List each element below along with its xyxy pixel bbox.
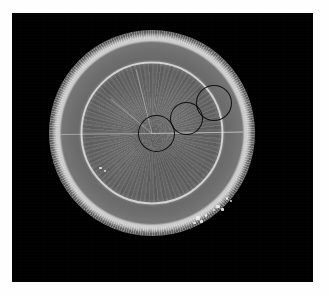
mineral-speckle [104,170,106,172]
mineral-speckle [99,167,102,169]
mineral-speckle [226,197,228,200]
mineral-speckle [230,200,232,202]
mineral-speckle [193,222,196,224]
mineral-speckle [216,205,220,208]
mineral-speckle [221,208,224,211]
figure-root [0,0,329,296]
image-plate [12,13,313,282]
mineral-speckle [200,220,203,223]
roi-circle-3[interactable] [196,85,232,121]
mineral-speckle [213,209,215,211]
mineral-speckle [205,214,207,217]
